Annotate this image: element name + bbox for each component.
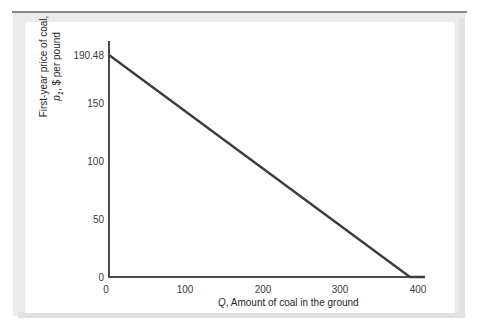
x-axis-title: Q, Amount of coal in the ground — [218, 297, 359, 308]
y-axis-symbol-subscript: 1 — [55, 91, 64, 95]
chart-plot-area: 190.48 150 100 50 0 0 100 200 300 400 Fi… — [0, 0, 478, 329]
demand-curve — [0, 0, 478, 329]
x-tick-0: 0 — [103, 284, 109, 295]
x-tick-400: 400 — [410, 284, 427, 295]
y-axis-title-line1: First-year price of coal, — [38, 0, 51, 157]
y-axis-title-units: , $ per pound — [50, 32, 61, 91]
x-axis-title-rest: , Amount of coal in the ground — [226, 297, 359, 308]
x-tick-200: 200 — [255, 284, 272, 295]
demand-curve-path — [109, 55, 425, 277]
x-tick-100: 100 — [177, 284, 194, 295]
x-tick-300: 300 — [332, 284, 349, 295]
y-axis-symbol-p: p — [50, 95, 61, 101]
y-axis-title: First-year price of coal, p1, $ per poun… — [38, 0, 67, 157]
y-axis-title-line2: p1, $ per pound — [50, 32, 61, 101]
figure-container: 190.48 150 100 50 0 0 100 200 300 400 Fi… — [0, 0, 478, 329]
x-axis-symbol-q: Q — [218, 297, 226, 308]
